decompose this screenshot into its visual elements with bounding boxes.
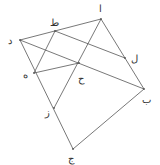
label-lam: ل [131, 53, 138, 64]
label-ha: ه [23, 69, 28, 80]
line-segments [20, 19, 144, 149]
label-ta: ط [50, 17, 59, 28]
segment-ba-jim [73, 89, 144, 149]
point-ba [143, 88, 145, 90]
label-ba: ب [142, 94, 151, 105]
label-alif: ا [99, 3, 102, 14]
point-lam [124, 57, 126, 59]
label-hha: ح [78, 73, 85, 85]
segment-ta-lam [55, 31, 125, 58]
point-zay [53, 107, 55, 109]
label-dal: د [8, 35, 12, 46]
geometric-diagram: ابجدهزحطل [0, 0, 160, 165]
segment-ta-ha [34, 31, 55, 73]
segment-ha-hha [34, 63, 79, 73]
point-alif [100, 18, 102, 20]
point-ta [54, 30, 56, 32]
label-zay: ز [44, 107, 50, 119]
segment-dal-alif [20, 19, 101, 40]
point-dal [19, 39, 21, 41]
segment-jim-dal [20, 40, 73, 149]
vertex-points [19, 18, 145, 150]
point-hha [78, 62, 80, 64]
label-jim: ج [68, 153, 75, 165]
point-ha [33, 72, 35, 74]
point-labels: ابجدهزحطل [8, 3, 151, 165]
point-jim [72, 148, 74, 150]
